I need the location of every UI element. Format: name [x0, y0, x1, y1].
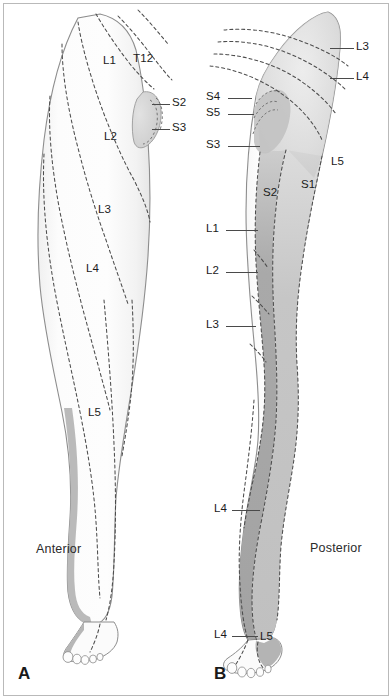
- anterior-label-L2: L2: [104, 130, 117, 142]
- dermatome-figure: L1 T12 S2 S3 L2 L3 L4 L5 Anterior A: [0, 0, 392, 699]
- anterior-label-L3: L3: [98, 203, 111, 215]
- posterior-leg-illustration: [196, 0, 392, 699]
- posterior-label-L3-lower: L3: [206, 318, 219, 330]
- posterior-label-L4-upper: L4: [356, 70, 369, 82]
- panel-posterior: S4 S5 S3 L1 L2 L3 L4 L4 L3 L4 L5 S1 S2 L…: [196, 0, 392, 699]
- posterior-leader-L4-leg: [232, 510, 260, 511]
- anterior-label-L5: L5: [88, 406, 101, 418]
- anterior-label-T12: T12: [133, 52, 153, 64]
- posterior-foot: [224, 638, 283, 678]
- posterior-label-S4: S4: [206, 90, 220, 102]
- anterior-view-label: Anterior: [36, 542, 81, 556]
- posterior-label-S3: S3: [206, 138, 220, 150]
- posterior-label-L4-foot: L4: [214, 628, 227, 640]
- posterior-label-S5: S5: [206, 106, 220, 118]
- anterior-gluteal-region: [132, 92, 162, 148]
- posterior-leader-L3-lower: [226, 326, 256, 327]
- posterior-gluteal-region: [253, 12, 341, 178]
- panel-letter-a: A: [18, 664, 30, 684]
- posterior-leader-L4-upper: [330, 78, 354, 79]
- posterior-label-L4-leg: L4: [214, 502, 227, 514]
- anterior-foot: [63, 622, 118, 664]
- posterior-label-L3-upper: L3: [356, 40, 369, 52]
- posterior-view-label: Posterior: [310, 541, 362, 555]
- posterior-label-L1: L1: [206, 222, 219, 234]
- posterior-label-L5-foot: L5: [260, 630, 273, 642]
- posterior-leader-S5: [228, 114, 254, 115]
- posterior-label-S1: S1: [301, 178, 315, 190]
- posterior-leader-L4-foot: [232, 636, 258, 637]
- panel-letter-b: B: [214, 664, 226, 684]
- posterior-label-S2: S2: [263, 186, 277, 198]
- anterior-leader-S2: [152, 104, 170, 105]
- anterior-label-L4: L4: [86, 262, 99, 274]
- anterior-label-L1: L1: [103, 54, 116, 66]
- posterior-label-L2: L2: [206, 264, 219, 276]
- panel-anterior: L1 T12 S2 S3 L2 L3 L4 L5 Anterior A: [0, 0, 196, 699]
- posterior-leader-L3-upper: [330, 48, 354, 49]
- posterior-leader-S3: [228, 146, 260, 147]
- anterior-leader-S3: [152, 129, 170, 130]
- posterior-leader-L2: [226, 272, 258, 273]
- anterior-label-S3: S3: [172, 121, 186, 133]
- anterior-label-S2: S2: [172, 96, 186, 108]
- posterior-leader-S4: [228, 98, 252, 99]
- posterior-label-L5: L5: [331, 155, 344, 167]
- posterior-leader-L1: [226, 230, 258, 231]
